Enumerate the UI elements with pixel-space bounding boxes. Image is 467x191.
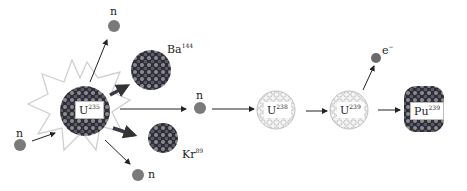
electron-icon <box>371 53 381 63</box>
neutron-bottom-icon <box>132 169 144 181</box>
label-pu239: Pu239 <box>410 102 444 120</box>
label-n-right: n <box>196 90 203 101</box>
label-n-top: n <box>110 6 117 17</box>
arrow-incoming-neutron <box>32 133 55 141</box>
label-u239: U239 <box>337 102 364 118</box>
ba144-nucleus-icon <box>131 50 171 90</box>
neutron-incoming-icon <box>14 139 26 151</box>
arrow-to-kr89 <box>113 128 134 135</box>
fission-diagram: n n n n U235 Ba144 Kr89 U238 U239 Pu239 … <box>0 0 467 191</box>
neutron-top-icon <box>108 20 120 32</box>
label-u238: U238 <box>264 102 291 118</box>
label-n-bottom: n <box>148 169 155 180</box>
label-u235: U235 <box>75 101 104 119</box>
neutron-right-icon <box>194 102 206 114</box>
arrow-to-electron <box>363 66 374 90</box>
diagram-graphics <box>0 0 467 191</box>
label-electron: e− <box>382 44 394 56</box>
kr89-nucleus-icon <box>148 123 178 153</box>
label-n-incoming: n <box>16 128 23 139</box>
label-kr89: Kr89 <box>182 148 203 160</box>
arrow-neutron-bottom <box>105 140 130 164</box>
label-ba144: Ba144 <box>167 43 193 55</box>
